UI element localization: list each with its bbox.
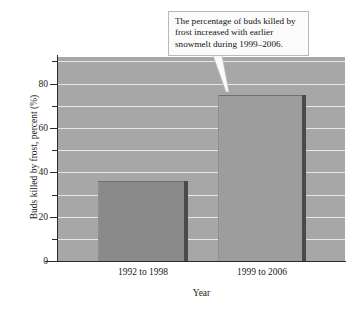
x-axis-tick-label: 1999 to 2006: [217, 267, 307, 277]
bar-side-edge: [302, 95, 306, 261]
bar: [218, 95, 306, 261]
y-axis-tick: [50, 128, 58, 129]
plot-area: [58, 57, 345, 261]
callout-leader-line: [210, 50, 232, 92]
y-axis-tick: [50, 217, 58, 218]
y-axis-tick: [50, 261, 58, 262]
y-axis-minor-tick: [52, 195, 58, 196]
x-axis-tick-label: 1992 to 1998: [98, 267, 188, 277]
y-axis-tick: [50, 84, 58, 85]
annotation-callout: The percentage of buds killed by frost i…: [168, 11, 309, 56]
y-axis-minor-tick: [52, 106, 58, 107]
x-axis-title: Year: [58, 288, 345, 298]
bar: [98, 181, 188, 261]
y-axis-tick-label: 0: [26, 256, 48, 266]
bar-face: [218, 95, 306, 261]
annotation-callout-text: The percentage of buds killed by frost i…: [175, 16, 296, 49]
bar-series: [58, 57, 345, 261]
x-axis-line: [45, 261, 346, 262]
y-axis-minor-tick: [52, 239, 58, 240]
y-axis-title: Buds killed by frost, percent (%): [29, 57, 39, 257]
y-axis-tick: [50, 172, 58, 173]
bar-chart-figure: 806040200 1992 to 19981999 to 2006 Buds …: [0, 0, 357, 310]
y-axis-minor-tick: [52, 61, 58, 62]
bar-face: [98, 181, 188, 261]
y-axis-minor-tick: [52, 150, 58, 151]
bar-side-edge: [184, 181, 188, 261]
y-axis-line: [57, 55, 58, 262]
